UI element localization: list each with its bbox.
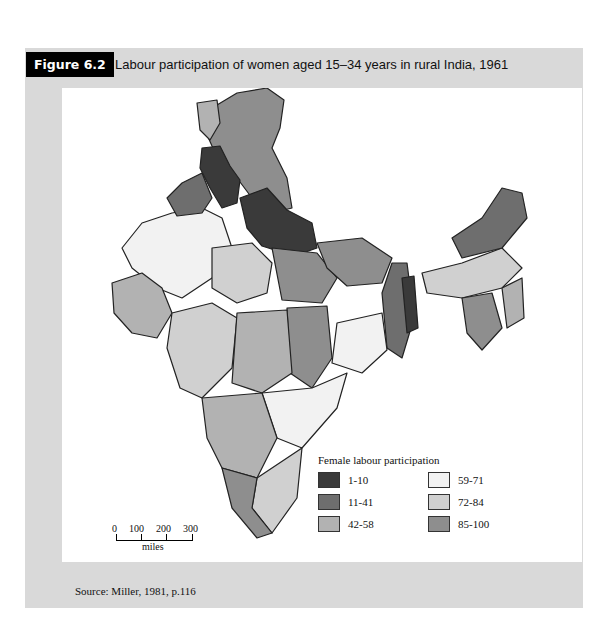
region-maharashtra-w [167, 303, 237, 398]
figure-label: Figure 6.2 [26, 52, 114, 77]
map-legend: Female labour participation 1-10 59-71 1… [318, 454, 518, 532]
region-mp-west [212, 243, 272, 303]
region-ne-south [462, 293, 502, 350]
legend-item: 1-10 [318, 472, 428, 488]
legend-title: Female labour participation [318, 454, 518, 466]
region-orissa [332, 313, 387, 373]
region-karnataka [202, 393, 277, 478]
region-maharashtra-e [232, 310, 292, 393]
figure-title: Labour participation of women aged 15–34… [115, 57, 508, 72]
region-nefa [452, 188, 527, 258]
scale-bar: 0 100 200 300 miles [112, 523, 198, 552]
legend-item: 11-41 [318, 494, 428, 510]
legend-item: 85-100 [428, 516, 518, 532]
legend-item: 42-58 [318, 516, 428, 532]
region-mp-central [287, 306, 332, 388]
legend-item: 72-84 [428, 494, 518, 510]
legend-item: 59-71 [428, 472, 518, 488]
source-caption: Source: Miller, 1981, p.116 [75, 585, 196, 597]
